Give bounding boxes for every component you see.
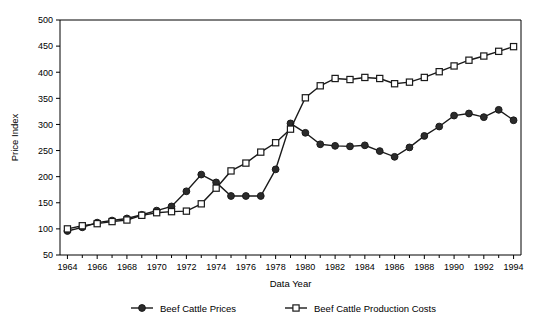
data-point-marker (406, 79, 412, 85)
data-point-marker (287, 126, 293, 132)
data-point-marker (124, 217, 130, 223)
x-tick-label: 1972 (176, 262, 196, 272)
data-point-marker (228, 193, 235, 200)
data-point-marker (243, 160, 249, 166)
data-point-marker (213, 185, 219, 191)
data-point-marker (302, 129, 309, 136)
chart-legend: Beef Cattle PricesBeef Cattle Production… (131, 303, 436, 314)
x-tick-label: 1982 (325, 262, 345, 272)
x-tick-label: 1988 (414, 262, 434, 272)
x-tick-label: 1978 (266, 262, 286, 272)
x-tick-label: 1964 (57, 262, 77, 272)
y-tick-label: 400 (38, 68, 53, 78)
data-point-marker (293, 305, 299, 311)
data-point-marker (332, 142, 339, 149)
y-tick-label: 500 (38, 15, 53, 25)
data-point-marker (94, 221, 100, 227)
data-point-marker (332, 75, 338, 81)
data-point-marker (377, 75, 383, 81)
data-point-marker (451, 112, 458, 119)
x-axis-title: Data Year (270, 278, 312, 289)
data-point-marker (406, 144, 413, 151)
x-axis: 1964196619681970197219741976197819801982… (57, 255, 523, 272)
data-point-marker (421, 133, 428, 140)
x-tick-label: 1980 (295, 262, 315, 272)
data-point-marker (302, 95, 308, 101)
y-tick-label: 300 (38, 120, 53, 130)
data-point-marker (168, 209, 174, 215)
legend-label: Beef Cattle Prices (160, 303, 236, 314)
y-tick-label: 450 (38, 41, 53, 51)
x-tick-label: 1976 (236, 262, 256, 272)
data-point-marker (109, 218, 115, 224)
legend-item-2[interactable]: Beef Cattle Production Costs (285, 303, 436, 314)
data-point-marker (317, 83, 323, 89)
y-tick-label: 50 (43, 250, 53, 260)
x-tick-label: 1994 (504, 262, 524, 272)
data-point-marker (466, 57, 472, 63)
series-line (67, 47, 513, 229)
data-point-marker (139, 305, 146, 312)
data-point-marker (347, 76, 353, 82)
data-point-marker (451, 63, 457, 69)
data-point-marker (436, 123, 443, 130)
x-tick-label: 1968 (117, 262, 137, 272)
y-tick-label: 200 (38, 172, 53, 182)
data-point-marker (154, 210, 160, 216)
data-point-marker (436, 69, 442, 75)
x-tick-label: 1974 (206, 262, 226, 272)
data-point-marker (257, 193, 264, 200)
beef-cattle-line-chart: 5010015020025030035040045050019641966196… (0, 0, 535, 330)
y-tick-label: 150 (38, 198, 53, 208)
data-point-marker (79, 223, 85, 229)
x-tick-label: 1990 (444, 262, 464, 272)
data-point-marker (317, 141, 324, 148)
y-tick-label: 250 (38, 146, 53, 156)
data-point-marker (376, 148, 383, 155)
data-point-marker (480, 114, 487, 121)
x-tick-label: 1984 (355, 262, 375, 272)
x-tick-label: 1970 (147, 262, 167, 272)
y-tick-label: 350 (38, 94, 53, 104)
data-point-marker (198, 171, 205, 178)
legend-label: Beef Cattle Production Costs (314, 303, 436, 314)
data-point-marker (258, 149, 264, 155)
data-point-marker (347, 143, 354, 150)
x-tick-label: 1986 (385, 262, 405, 272)
data-point-marker (421, 74, 427, 80)
chart-figure: 5010015020025030035040045050019641966196… (0, 0, 535, 330)
data-point-marker (272, 166, 279, 173)
data-point-marker (391, 81, 397, 87)
series-2 (64, 44, 516, 232)
data-point-marker (391, 153, 398, 160)
x-tick-label: 1966 (87, 262, 107, 272)
legend-item-1[interactable]: Beef Cattle Prices (131, 303, 236, 314)
data-point-marker (242, 193, 249, 200)
data-point-marker (481, 53, 487, 59)
data-point-marker (139, 212, 145, 218)
data-point-marker (183, 208, 189, 214)
data-point-marker (495, 106, 502, 113)
data-point-marker (198, 201, 204, 207)
data-point-marker (466, 110, 473, 117)
data-point-marker (183, 188, 190, 195)
y-tick-label: 100 (38, 224, 53, 234)
data-point-marker (496, 48, 502, 54)
data-point-marker (64, 226, 70, 232)
y-axis-title: Price Index (9, 113, 20, 161)
data-point-marker (361, 142, 368, 149)
data-point-marker (510, 117, 517, 124)
data-point-marker (228, 168, 234, 174)
x-tick-label: 1992 (474, 262, 494, 272)
data-point-marker (273, 140, 279, 146)
data-point-marker (510, 44, 516, 50)
data-point-marker (362, 74, 368, 80)
y-axis: 50100150200250300350400450500 (38, 15, 60, 260)
